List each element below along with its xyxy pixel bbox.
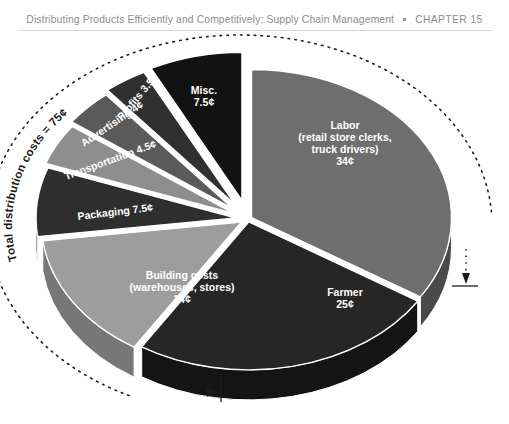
pie-label-line: Building costs bbox=[146, 269, 218, 281]
running-head-title: Distributing Products Efficiently and Co… bbox=[26, 14, 394, 25]
pie-label-line: Farmer bbox=[327, 286, 363, 298]
pie-label-line: (warehouses, stores) bbox=[129, 281, 234, 293]
pie-label-line: (retail store clerks, bbox=[298, 131, 391, 143]
running-head-chapter: CHAPTER 15 bbox=[415, 14, 483, 25]
pie-chart-svg: Labor(retail store clerks,truck drivers)… bbox=[0, 34, 509, 424]
pie-chart-figure: Labor(retail store clerks,truck drivers)… bbox=[0, 34, 509, 424]
pie-label-line: Misc. bbox=[191, 84, 217, 96]
running-head-separator-dot bbox=[403, 18, 406, 21]
pie-label-line: truck drivers) bbox=[311, 143, 378, 155]
arrowhead-right bbox=[462, 273, 470, 284]
running-head: Distributing Products Efficiently and Co… bbox=[0, 8, 509, 30]
page-root: Distributing Products Efficiently and Co… bbox=[0, 0, 509, 424]
pie-label-line: 14¢ bbox=[173, 293, 191, 305]
pie-label-line: 7.5¢ bbox=[194, 96, 215, 108]
header-rule bbox=[18, 30, 492, 31]
pie-label-line: 25¢ bbox=[336, 298, 354, 310]
pie-label-line: Labor bbox=[330, 119, 359, 131]
pie-label-line: 34¢ bbox=[336, 155, 354, 167]
pie-label-misc: Misc.7.5¢ bbox=[191, 84, 217, 108]
